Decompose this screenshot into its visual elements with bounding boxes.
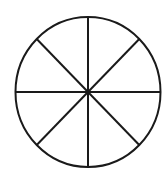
sector-dividers bbox=[16, 17, 161, 167]
divided-circle-diagram bbox=[0, 0, 167, 176]
